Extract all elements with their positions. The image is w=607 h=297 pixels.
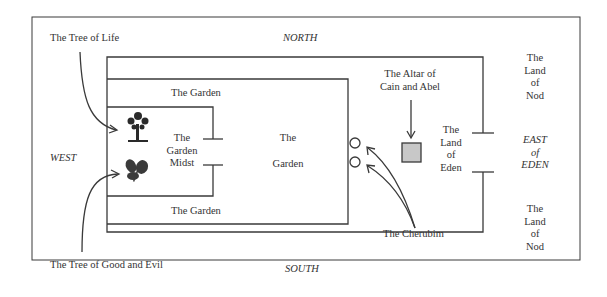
tree-of-good-evil-arrow bbox=[82, 174, 118, 252]
tree-of-good-and-evil-label: The Tree of Good and Evil bbox=[50, 259, 163, 272]
west-label: WEST bbox=[50, 152, 76, 165]
tree-of-life-icon bbox=[128, 112, 149, 142]
tree-of-good-and-evil-icon bbox=[124, 158, 151, 182]
cherub-circle-icon bbox=[350, 157, 360, 167]
garden-top-label: The Garden bbox=[171, 87, 221, 100]
east-of-eden-label: EAST of EDEN bbox=[515, 134, 555, 172]
garden-bottom-label: The Garden bbox=[171, 205, 221, 218]
altar-label: The Altar of Cain and Abel bbox=[370, 68, 450, 93]
tree-of-life-arrow bbox=[80, 52, 116, 130]
north-label: NORTH bbox=[283, 32, 317, 45]
garden-center-label: The Garden bbox=[268, 132, 308, 170]
south-label: SOUTH bbox=[285, 263, 319, 276]
tree-of-life-label: The Tree of Life bbox=[50, 32, 119, 45]
land-of-nod-south-label: The Land of Nod bbox=[518, 203, 552, 253]
garden-boundary bbox=[107, 79, 348, 224]
altar-square-icon bbox=[402, 143, 421, 162]
land-of-nod-north-label: The Land of Nod bbox=[518, 52, 552, 102]
garden-midst-label: The Garden Midst bbox=[160, 132, 204, 170]
cherub-circle-icon bbox=[350, 138, 360, 148]
land-of-eden-label: The Land of Eden bbox=[433, 124, 469, 174]
cherubim-label: The Cherubim bbox=[383, 228, 444, 241]
